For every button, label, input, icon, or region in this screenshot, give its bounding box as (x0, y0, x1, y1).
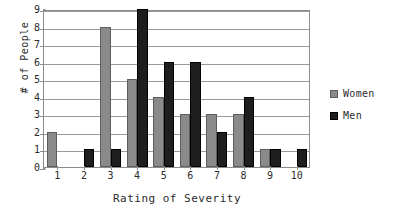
x-axis-tick-labels: 12345678910 (44, 170, 310, 184)
y-axis-tick-label: 9 (24, 5, 40, 15)
plot-area (44, 10, 310, 168)
bar-men-8 (244, 97, 255, 167)
bar-chart: # of People 0123456789 12345678910 Ratin… (0, 0, 399, 224)
y-axis-tick-label: 4 (24, 93, 40, 103)
x-axis-tick-label: 3 (107, 170, 113, 181)
bar-men-4 (137, 9, 148, 167)
bar-women-6 (180, 114, 191, 167)
bar-men-10 (297, 149, 308, 167)
x-axis-tick-label: 5 (161, 170, 167, 181)
legend-label: Men (343, 110, 362, 121)
bar-men-5 (164, 62, 175, 167)
x-axis-tick-label: 8 (240, 170, 246, 181)
legend-swatch-icon (330, 112, 338, 120)
bar-women-4 (127, 79, 138, 167)
y-axis-tick-label: 6 (24, 58, 40, 68)
bar-men-3 (111, 149, 122, 167)
bar-women-7 (206, 114, 217, 167)
x-axis-title: Rating of Severity (44, 192, 310, 205)
x-axis-tick-label: 10 (291, 170, 303, 181)
y-axis-tick-label: 2 (24, 128, 40, 138)
bar-men-2 (84, 149, 95, 167)
y-axis-tick-label: 8 (24, 23, 40, 33)
bar-women-5 (153, 97, 164, 167)
y-axis-tick-label: 5 (24, 75, 40, 85)
x-axis-tick-label: 4 (134, 170, 140, 181)
x-axis-tick-label: 9 (267, 170, 273, 181)
bar-men-6 (190, 62, 201, 167)
bar-men-7 (217, 132, 228, 167)
chart-legend: WomenMen (330, 88, 396, 132)
legend-item-women: Women (330, 88, 396, 99)
x-axis-tick-label: 7 (214, 170, 220, 181)
y-axis-tick-label: 7 (24, 40, 40, 50)
legend-item-men: Men (330, 110, 396, 121)
bar-men-9 (270, 149, 281, 167)
x-axis-tick-label: 2 (81, 170, 87, 181)
bar-women-8 (233, 114, 244, 167)
legend-swatch-icon (330, 90, 338, 98)
x-axis-tick-label: 6 (187, 170, 193, 181)
x-axis-tick-label: 1 (54, 170, 60, 181)
y-axis-tick-labels: 0123456789 (24, 10, 40, 168)
bar-women-9 (260, 149, 271, 167)
bar-women-1 (47, 132, 58, 167)
legend-label: Women (343, 88, 375, 99)
y-axis-tick-label: 3 (24, 110, 40, 120)
bars-layer (44, 11, 309, 167)
bar-women-3 (100, 27, 111, 167)
y-axis-tick-label: 1 (24, 145, 40, 155)
y-axis-tick-label: 0 (24, 163, 40, 173)
